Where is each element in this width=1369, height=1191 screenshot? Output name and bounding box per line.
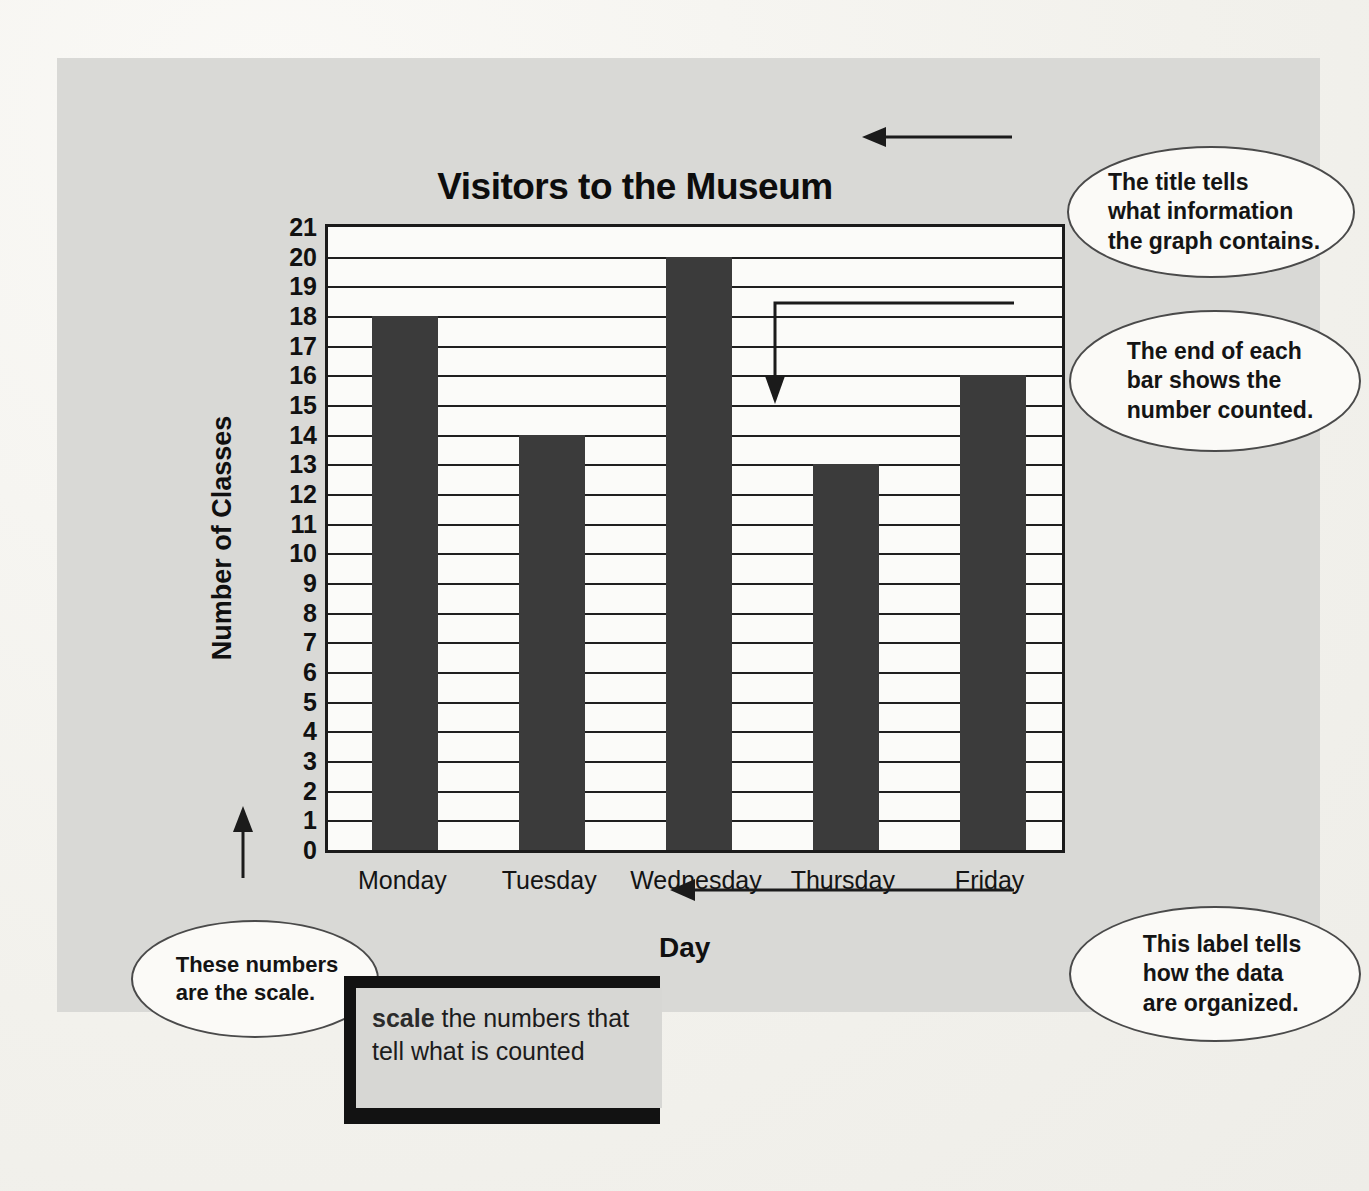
x-axis-tick-labels: MondayTuesdayWednesdayThursdayFriday bbox=[325, 866, 1065, 906]
y-axis-tick-label: 17 bbox=[271, 333, 317, 358]
callout-scale-line2-suffix: . bbox=[309, 980, 315, 1005]
y-axis-tick-label: 7 bbox=[271, 630, 317, 655]
bar bbox=[960, 375, 1026, 850]
x-axis-tick-label: Thursday bbox=[791, 866, 895, 895]
bar bbox=[666, 257, 732, 850]
y-axis-tick-labels: 2120191817161514131211109876543210 bbox=[253, 224, 317, 853]
bar bbox=[813, 464, 879, 850]
callout-scale-note-text: These numbersare the scale. bbox=[172, 951, 339, 1007]
y-axis-tick-label: 3 bbox=[271, 749, 317, 774]
y-axis-tick-label: 8 bbox=[271, 600, 317, 625]
y-axis-tick-label: 2 bbox=[271, 778, 317, 803]
y-axis-tick-label: 4 bbox=[271, 719, 317, 744]
bar bbox=[519, 435, 585, 850]
x-axis-tick-label: Friday bbox=[955, 866, 1024, 895]
callout-bar-note: The end of each bar shows the number cou… bbox=[1069, 310, 1361, 452]
y-axis-tick-label: 1 bbox=[271, 808, 317, 833]
y-axis-tick-label: 12 bbox=[271, 482, 317, 507]
callout-title-note-text: The title tells what information the gra… bbox=[1102, 168, 1320, 256]
callout-bar-note-text: The end of each bar shows the number cou… bbox=[1117, 337, 1314, 425]
callout-day-note-text: This label tells how the data are organi… bbox=[1129, 930, 1302, 1018]
y-axis-tick-label: 16 bbox=[271, 363, 317, 388]
bar bbox=[372, 316, 438, 850]
glossary-box: scale the numbers that tell what is coun… bbox=[356, 988, 662, 1108]
plot-area bbox=[325, 224, 1065, 853]
y-axis-tick-label: 21 bbox=[271, 215, 317, 240]
y-axis-tick-label: 5 bbox=[271, 689, 317, 714]
y-axis-tick-label: 6 bbox=[271, 660, 317, 685]
y-axis-tick-label: 15 bbox=[271, 393, 317, 418]
callout-scale-note: These numbersare the scale. bbox=[131, 920, 379, 1038]
x-axis-tick-label: Wednesday bbox=[630, 866, 762, 895]
x-axis-title: Day bbox=[659, 932, 710, 964]
callout-scale-line1: These numbers bbox=[176, 952, 339, 977]
y-axis-tick-label: 9 bbox=[271, 571, 317, 596]
callout-day-note: This label tells how the data are organi… bbox=[1069, 906, 1361, 1042]
y-axis-tick-label: 10 bbox=[271, 541, 317, 566]
y-axis-tick-label: 11 bbox=[271, 511, 317, 536]
y-axis-title: Number of Classes bbox=[207, 388, 238, 688]
y-axis-tick-label: 18 bbox=[271, 304, 317, 329]
glossary-term: scale bbox=[372, 1004, 435, 1032]
x-axis-tick-label: Monday bbox=[358, 866, 447, 895]
x-axis-tick-label: Tuesday bbox=[502, 866, 597, 895]
page-background: Visitors to the Museum Number of Classes… bbox=[0, 0, 1369, 1191]
y-axis-tick-label: 0 bbox=[271, 838, 317, 863]
y-axis-tick-label: 13 bbox=[271, 452, 317, 477]
callout-scale-bold-word: scale bbox=[254, 980, 309, 1005]
y-axis-tick-label: 14 bbox=[271, 422, 317, 447]
callout-title-note: The title tells what information the gra… bbox=[1067, 146, 1355, 278]
figure-panel: Visitors to the Museum Number of Classes… bbox=[57, 58, 1320, 1012]
y-axis-tick-label: 19 bbox=[271, 274, 317, 299]
y-axis-tick-label: 20 bbox=[271, 244, 317, 269]
callout-scale-line2-prefix: are the bbox=[176, 980, 254, 1005]
chart-title: Visitors to the Museum bbox=[325, 166, 945, 208]
